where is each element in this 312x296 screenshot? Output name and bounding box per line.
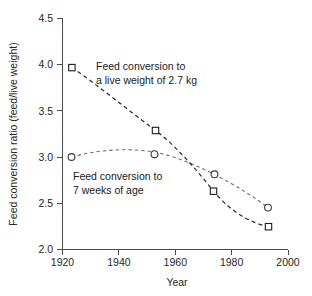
y-tick-label-4.5: 4.5 [38, 12, 53, 24]
annotation-seven-weeks-line2: 7 weeks of age [73, 184, 144, 196]
data-point-seven-weeks-1953 [151, 151, 158, 158]
annotation-live-weight-line2: a live weight of 2.7 kg [96, 74, 197, 86]
x-axis-title: Year [166, 276, 188, 288]
data-point-live-weight-1953 [152, 127, 158, 133]
feed-conversion-line-chart: 4.5 4.0 3.5 3.0 2.5 2.0 1920 1940 1960 1… [0, 0, 312, 296]
data-point-live-weight-1923 [69, 64, 75, 70]
y-tick-label-4.0: 4.0 [38, 58, 53, 70]
annotation-live-weight-line1: Feed conversion to [96, 60, 185, 72]
x-tick-label-2000: 2000 [276, 256, 300, 268]
x-tick-label-1960: 1960 [164, 256, 188, 268]
x-tick-label-1980: 1980 [220, 256, 244, 268]
data-point-seven-weeks-1993 [265, 204, 272, 211]
y-tick-label-2.0: 2.0 [38, 243, 53, 255]
chart-figure: 4.5 4.0 3.5 3.0 2.5 2.0 1920 1940 1960 1… [0, 0, 312, 296]
y-tick-label-2.5: 2.5 [38, 197, 53, 209]
annotation-seven-weeks-line1: Feed conversion to [73, 170, 162, 182]
data-point-live-weight-1974 [210, 188, 216, 194]
y-tick-label-3.0: 3.0 [38, 151, 53, 163]
y-tick-label-3.5: 3.5 [38, 105, 53, 117]
data-point-seven-weeks-1974 [211, 171, 218, 178]
data-point-seven-weeks-1923 [68, 154, 75, 161]
y-axis-title: Feed conversion ratio (feed/live weight) [7, 42, 19, 225]
x-tick-label-1940: 1940 [107, 256, 131, 268]
data-point-live-weight-1993 [265, 224, 271, 230]
x-tick-label-1920: 1920 [51, 256, 75, 268]
